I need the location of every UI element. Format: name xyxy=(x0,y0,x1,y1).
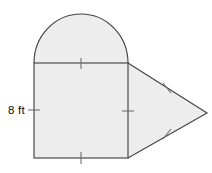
dimension-labels-group: 8 ft xyxy=(8,104,25,116)
figure-canvas: 8 ft xyxy=(0,0,212,173)
composite-figure: 8 ft xyxy=(0,0,212,173)
square-fill xyxy=(34,63,128,158)
triangle-fill xyxy=(128,63,207,158)
semicircle-fill xyxy=(34,14,128,63)
left-side-dimension: 8 ft xyxy=(8,104,25,116)
